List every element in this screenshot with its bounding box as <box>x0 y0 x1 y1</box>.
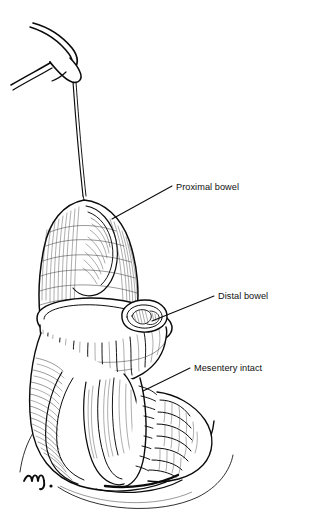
distal-bowel-opening <box>122 300 167 332</box>
label-distal-bowel: Distal bowel <box>218 291 268 301</box>
illustration-canvas: Proximal bowel Distal bowel Mesentery in… <box>0 0 315 529</box>
label-mesentery-intact: Mesentery intact <box>194 363 263 373</box>
illustration-figure: Proximal bowel Distal bowel Mesentery in… <box>0 0 315 529</box>
label-proximal-bowel: Proximal bowel <box>176 182 239 192</box>
